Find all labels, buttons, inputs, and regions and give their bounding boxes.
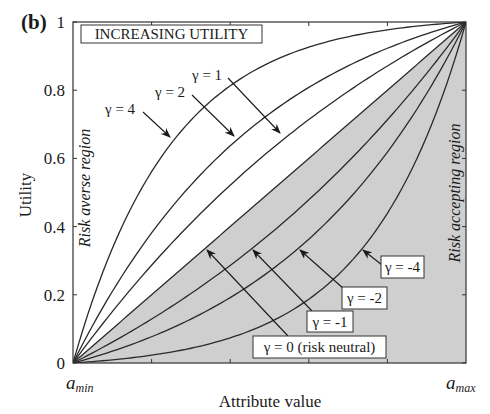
x-tick-a-min: amin: [66, 372, 94, 395]
annotation-gamma-0: γ = 0 (risk neutral): [263, 339, 376, 356]
utility-chart: 00.20.40.60.81 (b) INCREASING UTILITY Ri…: [0, 0, 490, 414]
arrow-gamma-2: [192, 95, 234, 136]
x-tick-a-max: amax: [446, 372, 476, 395]
y-axis-title: Utility: [16, 172, 35, 217]
panel-label: (b): [21, 10, 47, 34]
arrow-gamma-4: [143, 112, 170, 137]
risk-averse-label: Risk averse region: [76, 129, 94, 248]
x-axis-title: Attribute value: [219, 392, 321, 411]
annotation-gamma-1: γ = 1: [191, 67, 222, 83]
y-tick-label: 0.6: [44, 149, 65, 168]
arrow-gamma-1: [228, 78, 280, 133]
y-tick-label: 0: [57, 354, 66, 373]
y-tick-label: 0.4: [44, 218, 66, 237]
risk-accepting-label: Risk accepting region: [446, 124, 464, 264]
annotation-gamma-minus-2: γ = -2: [346, 290, 382, 306]
y-tick-label: 0.8: [44, 81, 65, 100]
annotation-gamma-minus-4: γ = -4: [384, 259, 421, 275]
y-tick-label: 0.2: [44, 286, 65, 305]
annotation-gamma-2: γ = 2: [154, 84, 185, 100]
annotation-gamma-minus-1: γ = -1: [311, 314, 347, 330]
annotation-gamma-4: γ = 4: [104, 101, 136, 117]
title-box-label: INCREASING UTILITY: [95, 26, 249, 42]
y-tick-labels: 00.20.40.60.81: [44, 13, 66, 373]
y-tick-label: 1: [57, 13, 66, 32]
